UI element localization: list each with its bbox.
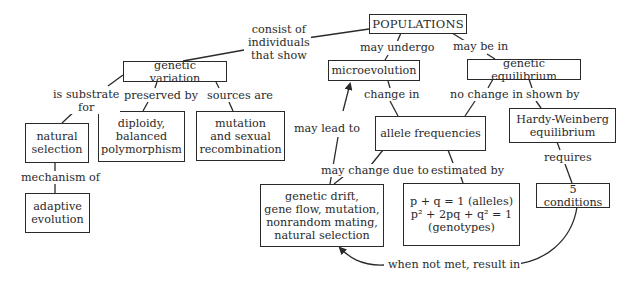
node-microevolution: microevolution (328, 60, 420, 81)
node-five-conditions: 5 conditions (536, 183, 610, 208)
node-label-line: genetic drift, (285, 190, 359, 203)
genotype-equation: p² + 2pq + q² = 1 (411, 208, 512, 221)
link-change-in: change in (363, 88, 420, 101)
node-hardy-weinberg: Hardy-Weinberg equilibrium (509, 108, 616, 143)
node-label-line: polymorphism (101, 143, 182, 156)
node-label-line: and sexual (210, 130, 271, 143)
node-label-line: Hardy-Weinberg (516, 113, 609, 126)
link-is-substrate-for: is substrate for (52, 88, 120, 114)
link-estimated-by: estimated by (430, 164, 505, 177)
node-label-line: diploidy, (118, 117, 165, 130)
link-label-line: individuals (248, 36, 310, 49)
node-label-line: selection (32, 143, 83, 156)
link-may-be-in: may be in (452, 40, 509, 53)
node-label: 5 conditions (540, 183, 606, 209)
link-consist-of: consist of individuals that show (247, 23, 311, 62)
node-label: POPULATIONS (372, 18, 464, 31)
link-label-line: is substrate (53, 88, 119, 101)
node-mutation-recombination: mutation and sexual recombination (196, 111, 285, 161)
node-genetic-variation: genetic variation (123, 61, 227, 82)
node-label-line: gene flow, mutation, (264, 203, 379, 216)
node-label-line: recombination (199, 143, 281, 156)
node-label-line: adaptive (33, 200, 82, 213)
link-requires: requires (543, 151, 593, 164)
node-label-line: natural (36, 130, 77, 143)
link-label-line: consist of (252, 23, 306, 36)
node-label-line: evolution (31, 213, 83, 226)
link-no-change-in: no change in (449, 88, 524, 101)
node-hardy-weinberg-equations: p + q = 1 (alleles) p² + 2pq + q² = 1 (g… (403, 183, 520, 246)
link-sources-are: sources are (206, 89, 274, 102)
link-may-change-due-to: may change due to (320, 164, 430, 177)
node-label: allele frequencies (380, 127, 481, 140)
node-adaptive-evolution: adaptive evolution (25, 193, 90, 233)
node-diploidy: diploidy, balanced polymorphism (98, 111, 185, 162)
node-label: genetic equilibrium (471, 57, 577, 83)
node-label: microevolution (332, 64, 417, 77)
node-label-line: mutation (215, 117, 266, 130)
allele-equation: p + q = 1 (alleles) (410, 195, 513, 208)
link-mechanism-of: mechanism of (20, 171, 101, 184)
node-evolutionary-mechanisms: genetic drift, gene flow, mutation, nonr… (260, 184, 384, 247)
link-label-line: for (78, 101, 94, 114)
node-allele-frequencies: allele frequencies (375, 116, 486, 151)
link-label-line: that show (251, 49, 307, 62)
link-preserved-by: preserved by (123, 89, 199, 102)
node-label-line: nonrandom mating, (266, 216, 378, 229)
genotype-label: (genotypes) (428, 221, 495, 234)
node-natural-selection: natural selection (25, 123, 89, 163)
link-may-undergo: may undergo (359, 41, 436, 54)
node-label-line: equilibrium (530, 126, 596, 139)
node-label-line: natural selection (274, 229, 370, 242)
link-when-not-met: when not met, result in (387, 258, 521, 271)
node-label-line: balanced (116, 130, 167, 143)
link-shown-by: shown by (525, 88, 581, 101)
node-genetic-equilibrium: genetic equilibrium (467, 59, 581, 80)
node-label: genetic variation (127, 59, 223, 85)
node-populations: POPULATIONS (369, 14, 467, 34)
link-may-lead-to: may lead to (293, 122, 361, 135)
